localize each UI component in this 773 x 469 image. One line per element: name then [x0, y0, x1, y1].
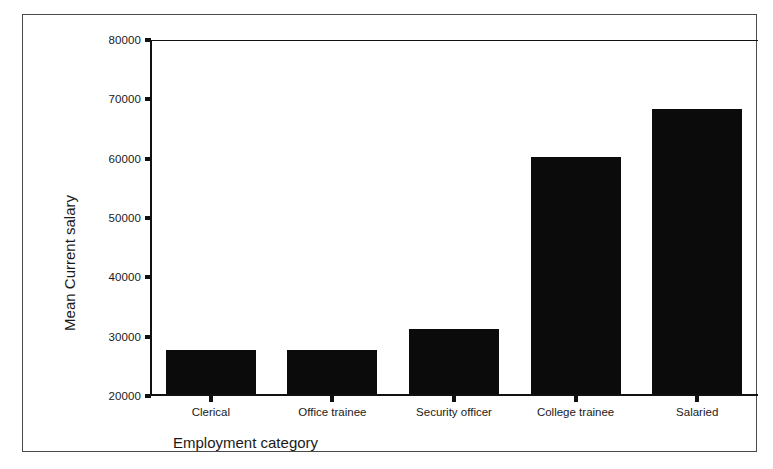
x-category-label: Office trainee — [298, 406, 366, 418]
y-tick-mark — [145, 275, 151, 279]
y-tick-label: 70000 — [109, 93, 141, 105]
y-tick-mark — [145, 38, 151, 42]
plot-top-rule — [150, 40, 758, 41]
x-category-label: Salaried — [676, 406, 718, 418]
y-tick-label: 50000 — [109, 212, 141, 224]
y-tick-mark — [145, 216, 151, 220]
x-tick-mark — [574, 396, 578, 402]
y-tick-mark — [145, 394, 151, 398]
x-tick-mark — [695, 396, 699, 402]
x-category-label: Clerical — [192, 406, 230, 418]
y-tick-mark — [145, 335, 151, 339]
x-tick-mark — [452, 396, 456, 402]
y-axis-title: Mean Current salary — [61, 195, 78, 331]
chart-frame: Mean Current salary Employment category … — [22, 14, 757, 452]
y-tick-label: 40000 — [109, 271, 141, 283]
bar-5 — [652, 109, 742, 394]
y-tick-mark — [145, 157, 151, 161]
x-tick-mark — [209, 396, 213, 402]
bar-2 — [287, 350, 377, 395]
plot-area: 20000300004000050000600007000080000 Cler… — [150, 40, 758, 396]
x-tick-mark — [330, 396, 334, 402]
y-tick-label: 20000 — [109, 390, 141, 402]
y-tick-label: 60000 — [109, 153, 141, 165]
x-category-label: College trainee — [537, 406, 614, 418]
x-axis-title: Employment category — [173, 434, 318, 451]
bar-4 — [531, 157, 621, 394]
y-tick-label: 30000 — [109, 331, 141, 343]
y-tick-mark — [145, 97, 151, 101]
y-tick-label: 80000 — [109, 34, 141, 46]
bar-3 — [409, 329, 499, 394]
bar-1 — [166, 350, 256, 395]
x-category-label: Security officer — [416, 406, 492, 418]
